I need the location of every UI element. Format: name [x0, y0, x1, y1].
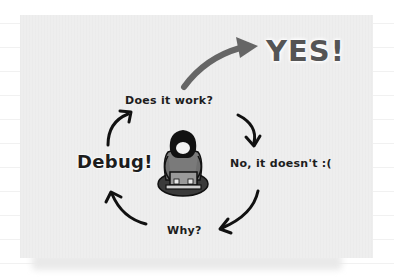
why-label: Why? [167, 224, 202, 237]
arrow-work-to-no-icon [238, 115, 260, 146]
no-it-doesnt-label: No, it doesn't :( [230, 157, 332, 170]
arrow-to-yes-icon [184, 37, 258, 87]
person-with-laptop-icon [158, 130, 208, 196]
arrow-no-to-why-icon [220, 191, 258, 233]
arrow-why-to-debug-icon [106, 192, 146, 224]
arrow-debug-to-work-icon [108, 111, 131, 145]
debug-label: Debug! [77, 151, 153, 172]
yes-label: YES! [266, 34, 345, 68]
does-it-work-label: Does it work? [125, 94, 213, 107]
